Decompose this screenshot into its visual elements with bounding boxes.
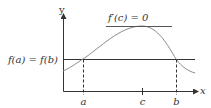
- point-b-label: b: [173, 96, 179, 107]
- x-axis-label: x: [200, 85, 206, 96]
- level-line-label: f(a) = f(b): [7, 54, 58, 65]
- point-a-label: a: [81, 96, 87, 107]
- function-curve: [63, 26, 195, 73]
- tangent-label: f′(c) = 0: [107, 12, 149, 23]
- rolles-theorem-diagram: y x f(a) = f(b) f′(c) = 0 a c b: [0, 0, 211, 108]
- y-axis-label: y: [58, 4, 65, 15]
- point-c-label: c: [140, 96, 146, 107]
